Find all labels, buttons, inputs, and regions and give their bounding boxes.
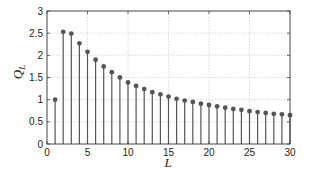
stem-point	[134, 84, 139, 144]
stem-point	[255, 110, 260, 144]
x-tick-label: 0	[44, 147, 50, 158]
stem-point	[101, 64, 106, 144]
y-tick-labels: 00.511.522.53	[29, 6, 43, 150]
stem-point	[231, 107, 236, 144]
y-tick-label: 2	[37, 50, 43, 61]
stem-point	[118, 75, 123, 144]
stem-point	[271, 111, 276, 144]
stem-point	[69, 31, 74, 144]
stem-point	[247, 109, 252, 144]
stem-chart: 051015202530 00.511.522.53 L QL	[0, 0, 310, 176]
stem-point	[150, 90, 155, 144]
stem-point	[53, 97, 58, 144]
stem-point	[142, 87, 147, 144]
stem-point	[280, 112, 285, 144]
stem-point	[174, 96, 179, 144]
stem-point	[223, 105, 228, 144]
x-tick-label: 20	[203, 147, 215, 158]
y-tick-label: 3	[37, 6, 43, 17]
x-tick-label: 30	[284, 147, 296, 158]
stem-point	[182, 98, 187, 144]
stem-point	[215, 104, 220, 144]
data-series	[53, 29, 293, 144]
x-tick-label: 10	[122, 147, 134, 158]
x-axis-label: L	[163, 155, 171, 170]
stem-point	[61, 29, 66, 144]
y-tick-label: 1.5	[29, 72, 43, 83]
stem-point	[109, 70, 114, 144]
stem-point	[199, 101, 204, 144]
stem-point	[263, 111, 268, 144]
stem-point	[166, 94, 171, 144]
stem-point	[239, 107, 244, 144]
y-tick-label: 1	[37, 94, 43, 105]
y-tick-label: 0.5	[29, 116, 43, 127]
x-tick-label: 25	[244, 147, 256, 158]
stem-point	[126, 80, 131, 144]
stem-point	[207, 103, 212, 144]
y-axis-label: QL	[10, 65, 27, 79]
y-tick-label: 2.5	[29, 28, 43, 39]
stem-point	[85, 49, 90, 144]
svg-text:QL: QL	[10, 65, 27, 79]
stem-point	[93, 57, 98, 144]
stem-point	[77, 41, 82, 144]
x-tick-label: 5	[85, 147, 91, 158]
y-tick-label: 0	[37, 139, 43, 150]
